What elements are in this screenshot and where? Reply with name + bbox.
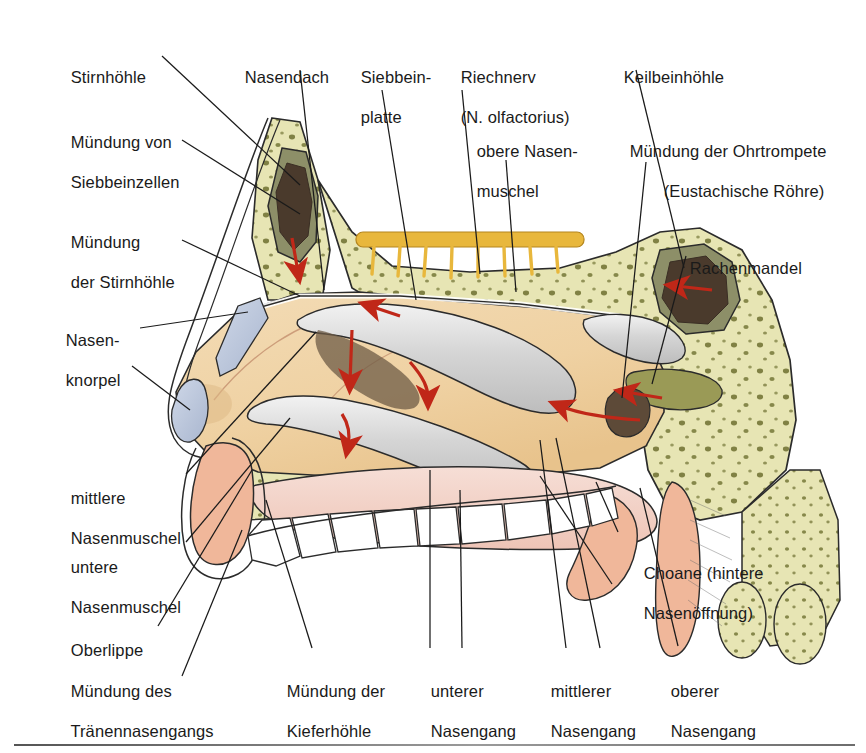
label-keilbeinhoehle: Keilbeinhöhle: [605, 47, 724, 107]
label-choane: Choane (hintere Nasenöffnung): [625, 543, 764, 643]
label-obere-nasenmuschel: obere Nasen- muschel: [458, 121, 578, 221]
label-muendung-stirnhoehle: Mündung der Stirnhöhle: [52, 212, 175, 312]
label-stirnhoehle: Stirnhöhle: [52, 47, 146, 107]
label-siebbeinplatte: Siebbein- platte: [342, 47, 431, 147]
label-muendung-traenennasengangs: Mündung des Tränennasengangs: [52, 661, 214, 753]
label-oberer-nasengang: oberer Nasengang: [652, 661, 756, 753]
label-rachenmandel: Rachenmandel: [671, 238, 802, 298]
bottom-rule: [14, 744, 855, 746]
label-mittlerer-nasengang: mittlerer Nasengang: [532, 661, 636, 753]
label-nasenknorpel: Nasen- knorpel: [47, 310, 121, 410]
label-muendung-ohrtrompete: Mündung der Ohrtrompete (Eustachische Rö…: [611, 121, 827, 221]
label-unterer-nasengang: unterer Nasengang: [412, 661, 516, 753]
label-nasendach: Nasendach: [226, 47, 329, 107]
label-muendung-kieferhoehle: Mündung der Kieferhöhle: [268, 661, 385, 753]
label-muendung-siebbeinzellen: Mündung von Siebbeinzellen: [52, 112, 179, 212]
figure-canvas: Stirnhöhle Mündung von Siebbeinzellen Mü…: [0, 0, 866, 753]
